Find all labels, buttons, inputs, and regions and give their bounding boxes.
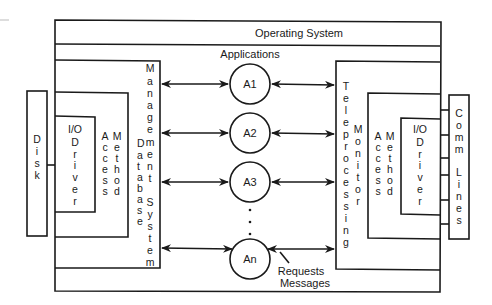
a1-label: A1	[243, 78, 256, 90]
ellipsis-dots	[249, 209, 252, 236]
left-access-label: Access	[101, 130, 108, 197]
right-method-label: Method	[386, 130, 395, 197]
application-a3: A3	[162, 162, 334, 202]
operating-system-label: Operating System	[255, 27, 343, 39]
architecture-diagram: Operating System Applications Database M…	[0, 0, 492, 305]
comm-lines-box: Comm Lines	[440, 95, 469, 239]
a3-label: A3	[243, 176, 256, 188]
left-io-driver-box: I/O Driver	[55, 116, 95, 212]
left-method-label: Method	[113, 130, 122, 197]
right-access-label: Access	[374, 130, 381, 197]
requests-label: Requests	[278, 265, 325, 277]
disk-box: Disk	[27, 91, 55, 236]
an-label: An	[243, 253, 256, 265]
a2-label: A2	[243, 127, 256, 139]
right-driver-label: Driver	[416, 136, 424, 207]
monitor-label: Monitor	[354, 123, 363, 207]
dbms-label-management-system: ManagementSystem	[146, 62, 155, 268]
right-access-method-box: Access Method	[368, 93, 440, 239]
application-a1: A1	[162, 64, 334, 104]
disk-label: Disk	[33, 133, 41, 181]
dbms-label-database: Database	[137, 137, 145, 227]
right-io-driver-box: I/O Driver	[401, 118, 440, 215]
right-io-label: I/O	[413, 123, 427, 135]
application-a2: A2	[162, 113, 334, 153]
left-access-method-box: Access Method	[55, 92, 128, 237]
lines-label: Lines	[456, 166, 462, 226]
left-io-label: I/O	[68, 123, 82, 135]
applications-label: Applications	[220, 48, 280, 60]
comm-label: Comm	[455, 107, 464, 155]
requests-messages-annotation: Requests Messages	[278, 252, 331, 289]
left-driver-label: Driver	[71, 136, 79, 207]
messages-label: Messages	[280, 277, 331, 289]
teleprocessing-label: Teleprocessing	[343, 80, 350, 248]
